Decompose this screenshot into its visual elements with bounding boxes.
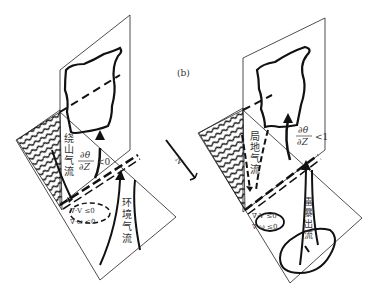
left-env-flow-label: 环 境 气 流 xyxy=(122,197,132,244)
right-panel: 局 地 气 流 ∂θ ∂Z <1 雷 暴 出 流 ∇·V ≤0 ∇·ω ≤0 xyxy=(198,18,362,283)
svg-text:∂Z: ∂Z xyxy=(297,137,309,147)
svg-text:∂Z: ∂Z xyxy=(79,162,91,172)
svg-text:气: 气 xyxy=(250,152,260,164)
left-panel: 绕 山 气 流 ∂θ ∂Z <0 环 境 气 流 ∇·V ≤0 ∇·ω ≤0 xyxy=(16,15,176,280)
svg-text:∂θ: ∂θ xyxy=(80,150,91,160)
svg-text:流: 流 xyxy=(304,229,313,240)
svg-text:<1: <1 xyxy=(315,132,328,142)
svg-text:流: 流 xyxy=(122,232,132,244)
svg-text:<0: <0 xyxy=(97,157,111,167)
left-mountain-flow-label: 绕 山 气 流 xyxy=(64,132,74,177)
left-div-label-1: ∇·V ≤0 xyxy=(70,207,95,215)
left-div-label-2: ∇·ω ≤0 xyxy=(70,218,95,226)
right-mountain-hatch xyxy=(199,108,245,210)
panel-label: (b) xyxy=(177,68,190,78)
north-arrow: N xyxy=(166,140,197,180)
svg-text:环: 环 xyxy=(122,197,132,208)
right-div-label-1: ∇·V ≤0 xyxy=(252,212,277,220)
svg-text:境: 境 xyxy=(122,208,132,220)
svg-text:出: 出 xyxy=(304,218,313,229)
right-cloud xyxy=(257,47,310,127)
right-local-flow-label: 局 地 气 流 xyxy=(250,131,260,175)
svg-text:局: 局 xyxy=(250,131,260,142)
svg-text:雷: 雷 xyxy=(304,197,313,207)
svg-text:绕: 绕 xyxy=(64,132,74,144)
diagram-canvas: 绕 山 气 流 ∂θ ∂Z <0 环 境 气 流 ∇·V ≤0 ∇·ω ≤0 (… xyxy=(0,0,371,295)
svg-text:N: N xyxy=(173,155,184,166)
svg-text:∂θ: ∂θ xyxy=(298,125,309,135)
svg-text:气: 气 xyxy=(122,220,132,232)
svg-text:流: 流 xyxy=(250,163,260,175)
svg-text:暴: 暴 xyxy=(304,208,313,218)
right-stability-label: ∂θ ∂Z <1 xyxy=(296,125,328,147)
svg-text:气: 气 xyxy=(64,154,74,166)
right-div-label-2: ∇·ω ≤0 xyxy=(252,223,277,231)
svg-text:山: 山 xyxy=(64,144,74,155)
right-outflow-label: 雷 暴 出 流 xyxy=(304,197,313,240)
svg-text:地: 地 xyxy=(250,141,260,153)
svg-text:流: 流 xyxy=(64,165,74,177)
